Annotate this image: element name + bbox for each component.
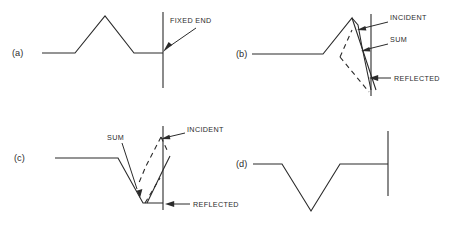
reflected-label-c: REFLECTED <box>193 200 239 209</box>
incident-label-c: INCIDENT <box>187 125 224 134</box>
panel-c: SUM INCIDENT REFLECTED (c) <box>14 125 239 210</box>
sum-label-b: SUM <box>390 35 407 44</box>
reflected-pulse-d <box>253 164 388 211</box>
panel-a: FIXED END (a) <box>12 12 212 88</box>
panel-d-label: (d) <box>236 159 247 169</box>
incident-leader-c <box>161 133 185 139</box>
incident-pulse-c <box>138 137 161 185</box>
wave-reflection-figure: FIXED END (a) INCIDENT <box>0 0 456 229</box>
sum-leader-b <box>361 44 388 51</box>
incident-pulse-a <box>42 16 163 53</box>
sum-label-c: SUM <box>107 133 124 142</box>
incident-pulse-c-upper <box>161 137 168 152</box>
fixed-end-leader-a <box>163 28 196 52</box>
panel-b-label: (b) <box>236 49 247 59</box>
figure-canvas: FIXED END (a) INCIDENT <box>0 0 456 229</box>
reflected-pulse-b <box>340 30 352 57</box>
fixed-end-label: FIXED END <box>170 16 212 25</box>
reflected-leader-c <box>165 201 190 207</box>
incident-label-b: INCIDENT <box>390 13 427 22</box>
incident-leader-b <box>357 22 388 31</box>
incident-pulse-b <box>252 18 376 90</box>
panel-d: (d) <box>236 131 388 211</box>
reflected-label-b: REFLECTED <box>394 74 440 83</box>
panel-b: INCIDENT SUM REFLECTED (b) <box>236 13 440 96</box>
panel-c-label: (c) <box>14 153 25 163</box>
panel-a-label: (a) <box>12 48 23 58</box>
